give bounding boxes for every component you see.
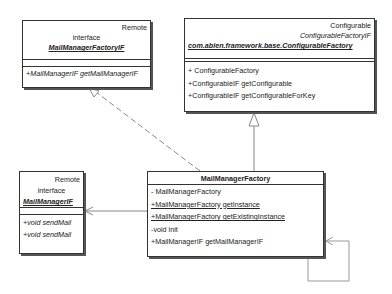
class-box-configurablefactory[interactable]: Configurable ConfigurableFactoryIF com.a…: [184, 18, 375, 112]
stereotype-label: Remote: [26, 23, 147, 33]
operation: +ConfigurableIF getConfigurable: [188, 78, 371, 91]
class-header: Configurable ConfigurableFactoryIF com.a…: [185, 19, 374, 59]
attributes-section: [23, 60, 150, 67]
operations-section: + ConfigurableFactory +ConfigurableIF ge…: [185, 62, 374, 105]
operation: -void init: [151, 224, 320, 237]
attributes-section: [20, 208, 83, 215]
realization-arrowhead-icon: [89, 88, 99, 97]
class-name: MailManagerFactoryIF: [26, 43, 147, 53]
operations-section: - MailManagerFactory +MailManagerFactory…: [148, 185, 323, 251]
generalization-arrowhead-icon: [249, 113, 259, 126]
operation: +void sendMail: [23, 229, 80, 241]
class-header: MailManagerFactory: [148, 172, 323, 185]
class-name: com.abien.framework.base.ConfigurableFac…: [188, 41, 371, 51]
class-box-mailmanagerif[interactable]: Remote interface MailManagerIF +void sen…: [19, 171, 84, 254]
kind-label: interface: [23, 185, 80, 196]
operation: +ConfigurableIF getConfigurableForKey: [188, 90, 371, 103]
operation: +MailManagerFactory getExistingInstance: [151, 211, 320, 224]
interface-label: ConfigurableFactoryIF: [188, 31, 371, 41]
stereotype-label: Remote: [23, 174, 80, 185]
operation: + ConfigurableFactory: [188, 65, 371, 78]
stereotype-label: Configurable: [188, 21, 371, 31]
operation: +void sendMail: [23, 217, 80, 229]
operations-section: +void sendMail +void sendMail: [20, 215, 83, 243]
operation: +MailManagerIF getMailManagerIF: [151, 236, 320, 249]
kind-label: interface: [26, 33, 147, 43]
class-header: Remote interface MailManagerIF: [20, 172, 83, 208]
operation: +MailManagerFactory getInstance: [151, 199, 320, 212]
class-header: Remote interface MailManagerFactoryIF: [23, 21, 150, 60]
class-box-mailmanagerfactoryif[interactable]: Remote interface MailManagerFactoryIF +M…: [22, 20, 151, 88]
class-name: MailManagerFactory: [151, 174, 320, 184]
operation: +MailManagerIF getMailManagerIF: [26, 69, 147, 79]
class-box-mailmanagerfactory[interactable]: MailManagerFactory - MailManagerFactory …: [147, 171, 324, 257]
operations-section: +MailManagerIF getMailManagerIF: [23, 67, 150, 81]
operation: - MailManagerFactory: [151, 186, 320, 199]
class-name: MailManagerIF: [23, 196, 80, 207]
